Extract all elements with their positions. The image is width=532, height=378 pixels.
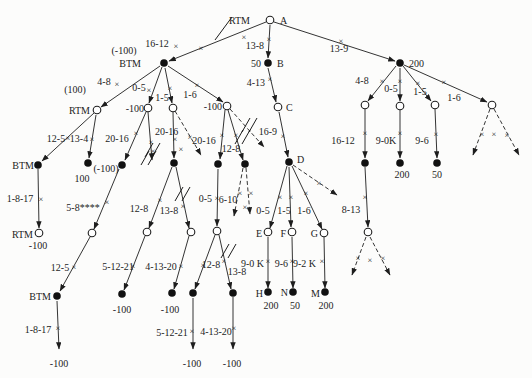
- x-mark-54: ×: [505, 130, 510, 140]
- tree-node-open-148: [144, 104, 152, 112]
- label-100-62: -100: [161, 304, 179, 315]
- label-169-20: 16-9: [259, 126, 277, 137]
- tree-svg: ××××××××××××××××××××××××××××××××××××××××…: [0, 0, 532, 378]
- x-mark-42: ×: [289, 192, 294, 202]
- label-100-14: (100): [64, 84, 86, 96]
- label-200-76: 200: [395, 169, 410, 180]
- label-1612-31: 16-12: [331, 135, 354, 146]
- tree-node-open-227: [223, 102, 231, 110]
- tree-node-N: [289, 288, 297, 296]
- label-H-70: H: [256, 288, 263, 299]
- x-mark-57: ×: [381, 253, 386, 263]
- tree-edge-2: [274, 22, 395, 61]
- label-50-73: 50: [290, 300, 300, 311]
- label-2016-28: 20-16: [155, 126, 178, 137]
- x-mark-21: ×: [220, 130, 225, 140]
- prune-slash: [141, 151, 149, 165]
- label-51221-63: 5-12-21: [156, 327, 188, 338]
- label-100-7: (-100): [112, 45, 137, 57]
- label-D-41: D: [297, 154, 304, 165]
- label-41320-58: 4-13-20: [145, 261, 177, 272]
- label-48-21: 4-8: [355, 75, 368, 86]
- x-mark-44: ×: [317, 178, 322, 188]
- x-mark-26: ×: [181, 201, 186, 211]
- label-1817-50: 1-8-17: [7, 193, 34, 204]
- label-48-10: 4-8: [97, 76, 110, 87]
- label-B-4: B: [277, 58, 284, 69]
- label-200-71: 200: [264, 300, 279, 311]
- tree-node-mid-193: [189, 289, 197, 297]
- x-mark-33: ×: [72, 262, 77, 272]
- tree-node-r-fill-50: [433, 159, 441, 167]
- label-41320-64: 4-13-20: [200, 326, 232, 337]
- label-50-3: 50: [251, 58, 261, 69]
- label-100-52: -100: [29, 240, 47, 251]
- tree-node-r-open-4: [488, 101, 496, 109]
- x-mark-29: ×: [249, 188, 254, 198]
- tree-node-BTM-1: [160, 59, 168, 67]
- label-05-22: 0-5: [384, 83, 397, 94]
- x-mark-23: ×: [151, 146, 156, 156]
- tree-node-r-fill-200: [396, 159, 404, 167]
- tree-node-leaf-100: [84, 159, 92, 167]
- label-100-34: 100: [75, 173, 90, 184]
- x-mark-48: ×: [363, 128, 368, 138]
- label-138-2: 13-8: [246, 40, 264, 51]
- label-100-16: -100: [126, 103, 144, 114]
- tree-node-E: [264, 228, 272, 236]
- tree-node-r-open-1: [361, 101, 369, 109]
- x-mark-55: ×: [356, 253, 361, 263]
- label-F-47: F: [280, 228, 286, 239]
- label-16-24: 1-6: [447, 92, 460, 103]
- pruned-branch-edge-40: [293, 165, 337, 195]
- label-51221-57: 5-12-21: [102, 261, 134, 272]
- label-813-45: 8-13: [342, 204, 360, 215]
- tree-node-open-92: [88, 229, 96, 237]
- x-mark-31: ×: [105, 197, 110, 207]
- label-200-6: 200: [409, 58, 424, 69]
- x-mark-40: ×: [232, 323, 237, 333]
- label-100-61: -100: [113, 304, 131, 315]
- label-A-1: A: [280, 15, 288, 26]
- label-1817-55: 1-8-17: [25, 324, 52, 335]
- tree-edge-27: [176, 167, 189, 228]
- label-100-17: -100: [204, 101, 222, 112]
- tree-node-M: [321, 288, 329, 296]
- tree-node-leaf-neg100-b: [168, 289, 176, 297]
- x-mark-36: ×: [179, 261, 184, 271]
- label-134-26: 13-4: [70, 133, 88, 144]
- tree-node-B: [264, 59, 272, 67]
- prune-slash: [249, 118, 257, 132]
- x-mark-22: ×: [234, 130, 239, 140]
- x-mark-45: ×: [266, 256, 271, 266]
- tree-node-r-open-2: [396, 102, 404, 110]
- tree-node-F: [288, 228, 296, 236]
- tree-node-RTM-2: [35, 229, 43, 237]
- label-100-35: (-100): [94, 163, 119, 175]
- tree-node-r-fill-1: [361, 159, 369, 167]
- x-mark-1: ×: [199, 43, 204, 53]
- x-mark-52: ×: [480, 129, 485, 139]
- label-139-5: 13-9: [330, 43, 348, 54]
- tree-node-BTM-3: [53, 292, 61, 300]
- x-mark-41: ×: [278, 192, 283, 202]
- tree-node-RTM-1: [93, 106, 101, 114]
- label-2016-27: 20-16: [105, 133, 128, 144]
- label-16-13: 1-6: [183, 89, 196, 100]
- label-M-74: M: [311, 288, 320, 299]
- x-mark-30: ×: [243, 202, 248, 212]
- tree-node-C: [274, 103, 282, 111]
- x-mark-6: ×: [281, 131, 286, 141]
- tree-node-open-190: [187, 228, 195, 236]
- tree-node-open-217: [213, 227, 221, 235]
- label-15-43: 1-5: [277, 205, 290, 216]
- x-mark-56: ×: [368, 255, 373, 265]
- tree-node-G: [320, 229, 328, 237]
- label-200-75: 200: [319, 300, 334, 311]
- label-05-42: 0-5: [256, 205, 269, 216]
- label-100-56: -100: [50, 358, 68, 369]
- x-mark-12: ×: [398, 76, 403, 86]
- x-mark-7: ×: [115, 79, 120, 89]
- tree-node-mid-218: [214, 160, 222, 168]
- label-15-12: 1-5: [155, 92, 168, 103]
